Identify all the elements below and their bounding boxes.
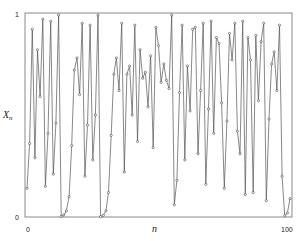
data-point [44, 185, 46, 187]
data-point [215, 36, 217, 38]
data-point [29, 143, 31, 145]
data-point [168, 87, 170, 89]
data-point [244, 194, 246, 196]
data-point [281, 175, 283, 177]
data-point [129, 65, 131, 67]
data-point [60, 215, 62, 217]
data-point [249, 59, 251, 61]
data-point [163, 63, 165, 65]
data-point [286, 212, 288, 214]
data-point [42, 18, 44, 20]
data-point [150, 55, 152, 57]
data-point [65, 210, 67, 212]
x-tick-label-100: 100 [281, 226, 293, 233]
data-point [58, 14, 60, 16]
y-axis-label: Xn [2, 109, 13, 122]
data-point [186, 65, 188, 67]
data-point [113, 73, 115, 75]
data-point [160, 81, 162, 83]
data-point [31, 28, 33, 30]
data-point [63, 214, 65, 216]
data-point [213, 132, 215, 134]
data-point [263, 22, 265, 24]
data-point [239, 153, 241, 155]
data-point [97, 14, 99, 16]
data-point [176, 179, 178, 181]
data-point [194, 26, 196, 28]
y-axis-label-subscript: n [9, 114, 13, 122]
data-point [47, 132, 49, 134]
data-point [231, 59, 233, 61]
data-point [110, 134, 112, 136]
data-point [200, 89, 202, 91]
data-point [252, 191, 254, 193]
data-point [107, 191, 109, 193]
data-point [68, 196, 70, 198]
data-point [173, 204, 175, 206]
data-point [189, 110, 191, 112]
data-point [121, 22, 123, 24]
data-point [126, 73, 128, 75]
y-tick-label-1: 1 [15, 11, 19, 18]
data-point [257, 100, 259, 102]
data-point [102, 214, 104, 216]
data-point [184, 159, 186, 161]
data-point [152, 147, 154, 149]
data-point [115, 57, 117, 59]
data-point [73, 69, 75, 71]
data-point [94, 114, 96, 116]
x-tick-label-0: 0 [26, 226, 30, 233]
data-point [50, 20, 52, 22]
data-point [202, 22, 204, 24]
data-point [79, 94, 81, 96]
data-point [178, 92, 180, 94]
data-point [271, 63, 273, 65]
data-point [55, 122, 57, 124]
data-point [255, 34, 257, 36]
data-point [265, 200, 267, 202]
data-point [131, 114, 133, 116]
data-point [165, 79, 167, 81]
data-point [205, 183, 207, 185]
data-point [242, 20, 244, 22]
data-point [76, 57, 78, 59]
data-point [136, 140, 138, 142]
data-point [207, 108, 209, 110]
data-point [118, 89, 120, 91]
data-point [92, 159, 94, 161]
data-point [260, 41, 262, 43]
data-point [134, 24, 136, 26]
data-point [139, 49, 141, 51]
data-point [273, 51, 275, 53]
data-point [247, 36, 249, 38]
series-layer [26, 14, 291, 218]
data-point [218, 43, 220, 45]
data-point [84, 175, 86, 177]
data-point [221, 102, 223, 104]
data-point [234, 22, 236, 24]
chart: 1 0 0 100 n Xn [0, 0, 307, 241]
data-point [223, 187, 225, 189]
x-axis-label: n [152, 223, 157, 234]
data-point [236, 130, 238, 132]
data-point [155, 26, 157, 28]
data-point [105, 210, 107, 212]
data-point [36, 49, 38, 51]
data-point [147, 106, 149, 108]
data-point [144, 71, 146, 73]
data-point [26, 187, 28, 189]
data-point [192, 28, 194, 30]
data-point [81, 22, 83, 24]
data-point [284, 215, 286, 217]
data-point [276, 89, 278, 91]
data-point [181, 24, 183, 26]
data-point [289, 198, 291, 200]
data-point [268, 118, 270, 120]
data-point [86, 124, 88, 126]
data-point [226, 120, 228, 122]
data-point [210, 20, 212, 22]
data-point [100, 216, 102, 218]
data-point [52, 173, 54, 175]
data-point [278, 24, 280, 26]
data-point [142, 77, 144, 79]
